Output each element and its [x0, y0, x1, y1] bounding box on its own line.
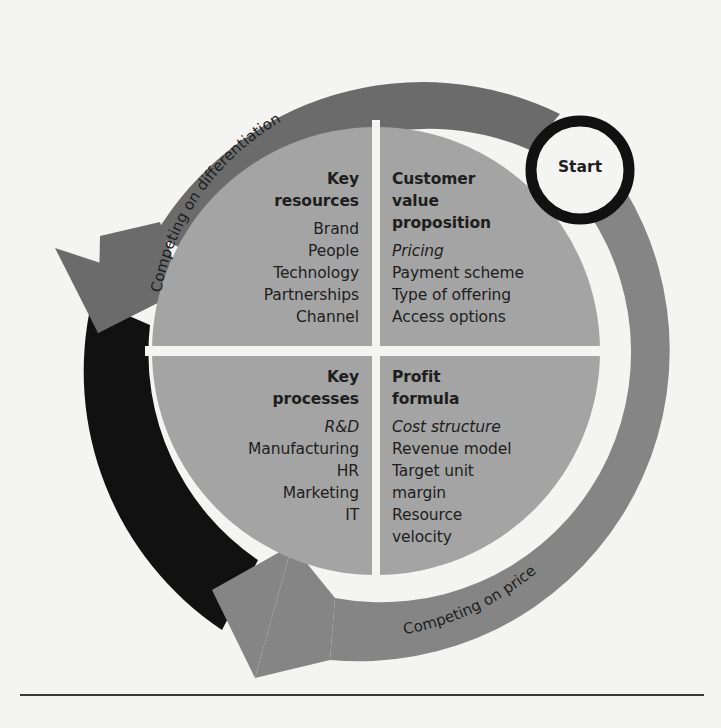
quadrant-title-line: value — [392, 190, 524, 212]
quadrant-title: Keyprocesses — [248, 366, 359, 410]
quadrant-title-line: processes — [248, 388, 359, 410]
quadrant-item: Manufacturing — [248, 438, 359, 460]
quadrant-item: Type of offering — [392, 284, 524, 306]
quadrant-item: Cost structure — [392, 416, 511, 438]
quadrant-title-line: proposition — [392, 212, 524, 234]
quadrant-item: Access options — [392, 306, 524, 328]
quadrant-item: Revenue model — [392, 438, 511, 460]
business-model-cycle-diagram: Competing on differentiation Competing o… — [0, 0, 721, 728]
quadrant-title: Customervalueproposition — [392, 168, 524, 234]
quadrant-title-line: resources — [264, 190, 359, 212]
quadrant-item: Pricing — [392, 240, 524, 262]
quadrant-item-list: PricingPayment schemeType of offeringAcc… — [392, 240, 524, 328]
quadrant-title-line: Key — [248, 366, 359, 388]
quadrant-item-list: BrandPeopleTechnologyPartnershipsChannel — [264, 218, 359, 328]
quadrant-title-line: Profit — [392, 366, 511, 388]
quadrant-item: velocity — [392, 526, 511, 548]
quadrant-item-list: Cost structureRevenue modelTarget unitma… — [392, 416, 511, 548]
quadrant-key-processes: KeyprocessesR&DManufacturingHRMarketingI… — [248, 366, 359, 526]
quadrant-profit-formula: ProfitformulaCost structureRevenue model… — [392, 366, 511, 548]
quadrant-item-list: R&DManufacturingHRMarketingIT — [248, 416, 359, 526]
quadrant-title-line: Customer — [392, 168, 524, 190]
quadrant-item: Marketing — [248, 482, 359, 504]
quadrant-item: Target unit — [392, 460, 511, 482]
quadrant-item: R&D — [248, 416, 359, 438]
quadrant-title-line: formula — [392, 388, 511, 410]
cycle-graphic: Competing on differentiation Competing o… — [0, 0, 721, 728]
bottom-divider — [20, 694, 704, 696]
quadrant-title-line: Key — [264, 168, 359, 190]
quadrant-item: Resource — [392, 504, 511, 526]
quadrant-item: Brand — [264, 218, 359, 240]
quadrant-item: margin — [392, 482, 511, 504]
quadrant-item: IT — [248, 504, 359, 526]
quadrant-item: Channel — [264, 306, 359, 328]
quadrant-title: Keyresources — [264, 168, 359, 212]
quadrant-item: HR — [248, 460, 359, 482]
quadrant-item: Payment scheme — [392, 262, 524, 284]
quadrant-item: Technology — [264, 262, 359, 284]
start-label: Start — [540, 158, 620, 176]
quadrant-item: People — [264, 240, 359, 262]
quadrant-item: Partnerships — [264, 284, 359, 306]
quadrant-key-resources: KeyresourcesBrandPeopleTechnologyPartner… — [264, 168, 359, 328]
quadrant-customer-value-proposition: CustomervaluepropositionPricingPayment s… — [392, 168, 524, 328]
quadrant-title: Profitformula — [392, 366, 511, 410]
